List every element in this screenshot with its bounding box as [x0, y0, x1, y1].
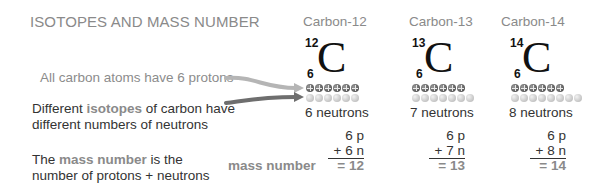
proton-row: [306, 84, 359, 92]
neutron-icon: [439, 94, 447, 102]
note-mass-number: The mass number is the number of protons…: [32, 152, 209, 184]
proton-icon: [448, 84, 456, 92]
element-symbol: C: [522, 36, 551, 80]
neutron-icon: [351, 94, 359, 102]
neutron-icon: [421, 94, 429, 102]
proton-icon: [351, 84, 359, 92]
mass-total: = 13: [419, 158, 465, 173]
element-symbol: C: [424, 36, 453, 80]
proton-icon: [324, 84, 332, 92]
atomic-subscript: 6: [514, 67, 521, 81]
isotope-name: Carbon-12: [303, 14, 367, 29]
neutron-row: [511, 94, 582, 102]
neutron-icon: [538, 94, 546, 102]
mass-total: = 12: [318, 158, 364, 173]
proton-term: 6 p: [419, 128, 465, 143]
proton-icon: [556, 84, 564, 92]
proton-icon: [333, 84, 341, 92]
atomic-subscript: 6: [307, 67, 314, 81]
proton-icon: [520, 84, 528, 92]
proton-icon: [315, 84, 323, 92]
mass-sum: 6 p + 8 n = 14: [520, 128, 566, 173]
proton-icon: [511, 84, 519, 92]
proton-icon: [538, 84, 546, 92]
mass-sum: 6 p + 6 n = 12: [318, 128, 364, 173]
neutron-icon: [412, 94, 420, 102]
arrows: [224, 70, 306, 110]
neutron-icon: [556, 94, 564, 102]
neutron-icon: [565, 94, 573, 102]
neutron-row: [412, 94, 474, 102]
note-isotopes: Different isotopes of carbon have differ…: [32, 101, 235, 133]
neutron-icon: [306, 94, 314, 102]
proton-row: [412, 84, 465, 92]
mass-sum: 6 p + 7 n = 13: [419, 128, 465, 173]
neutron-count: 8 neutrons: [509, 105, 573, 120]
proton-icon: [421, 84, 429, 92]
isotope-name: Carbon-14: [501, 14, 565, 29]
proton-icon: [439, 84, 447, 92]
neutron-row: [306, 94, 359, 102]
proton-term: 6 p: [520, 128, 566, 143]
neutron-count: 7 neutrons: [410, 105, 474, 120]
note-isotopes-pre: Different: [32, 101, 87, 116]
note-protons: All carbon atoms have 6 protons: [40, 70, 234, 86]
note-isotopes-line2: different numbers of neutrons: [32, 117, 208, 132]
mass-total: = 14: [520, 158, 566, 173]
neutron-icon: [315, 94, 323, 102]
isotope-carbon-14: Carbon-14 14 6 C 8 neutrons 6 p + 8 n = …: [502, 0, 606, 188]
mass-number-highlight: mass number: [59, 152, 147, 167]
isotope-name: Carbon-13: [409, 14, 473, 29]
neutron-term: + 7 n: [429, 143, 465, 159]
proton-row: [511, 84, 564, 92]
proton-icon: [306, 84, 314, 92]
note-mass-line2: number of protons + neutrons: [32, 168, 209, 183]
atomic-subscript: 6: [416, 67, 423, 81]
proton-icon: [457, 84, 465, 92]
note-mass-post: is the: [147, 152, 183, 167]
neutron-icon: [342, 94, 350, 102]
isotopes-highlight: isotopes: [87, 101, 143, 116]
neutron-icon: [466, 94, 474, 102]
proton-icon: [529, 84, 537, 92]
proton-term: 6 p: [318, 128, 364, 143]
note-isotopes-post: of carbon have: [142, 101, 235, 116]
neutron-count: 6 neutrons: [305, 105, 369, 120]
neutron-icon: [511, 94, 519, 102]
neutron-icon: [448, 94, 456, 102]
neutron-icon: [529, 94, 537, 102]
arrow-to-neutrons-icon: [226, 92, 304, 103]
diagram-title: ISOTOPES AND MASS NUMBER: [30, 13, 260, 30]
element-symbol: C: [317, 36, 346, 80]
proton-icon: [412, 84, 420, 92]
neutron-icon: [547, 94, 555, 102]
neutron-icon: [457, 94, 465, 102]
neutron-icon: [574, 94, 582, 102]
neutron-icon: [520, 94, 528, 102]
proton-icon: [430, 84, 438, 92]
note-mass-pre: The: [32, 152, 59, 167]
neutron-icon: [333, 94, 341, 102]
neutron-icon: [324, 94, 332, 102]
arrow-to-protons-icon: [226, 78, 304, 93]
neutron-term: + 6 n: [328, 143, 364, 159]
mass-number-label: mass number: [228, 158, 316, 173]
isotope-carbon-12: Carbon-12 12 6 C 6 neutrons 6 p + 6 n = …: [305, 0, 415, 188]
neutron-term: + 8 n: [530, 143, 566, 159]
proton-icon: [342, 84, 350, 92]
proton-icon: [547, 84, 555, 92]
neutron-icon: [430, 94, 438, 102]
